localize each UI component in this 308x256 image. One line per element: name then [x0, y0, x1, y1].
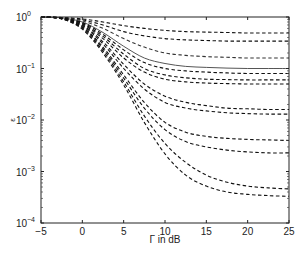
y-tick-exponent: −1: [27, 62, 35, 69]
y-tick-label: 10: [16, 167, 28, 178]
y-tick-exponent: 0: [27, 10, 31, 17]
x-tick-label: 25: [283, 226, 295, 237]
y-tick-exponent: −2: [27, 113, 35, 120]
plot-frame: [41, 17, 289, 223]
x-axis-label: Γ in dB: [149, 234, 180, 245]
x-tick-label: 0: [80, 226, 86, 237]
x-axis-ticks: −50510152025: [35, 17, 295, 237]
x-tick-label: 20: [242, 226, 254, 237]
y-tick-exponent: −4: [27, 216, 35, 223]
series-line-10: [41, 17, 289, 141]
line-chart: −50510152025 10010−110−210−310−4 Γ in dB…: [0, 0, 308, 256]
x-tick-label: 5: [121, 226, 127, 237]
plot-curves: [41, 17, 289, 196]
x-tick-label: −5: [35, 226, 47, 237]
y-tick-exponent: −3: [27, 165, 35, 172]
series-line-9: [41, 17, 289, 114]
x-tick-label: 15: [201, 226, 213, 237]
y-tick-label: 10: [16, 218, 28, 229]
y-axis-label: ε: [8, 118, 17, 122]
y-tick-label: 10: [16, 115, 28, 126]
series-line-11: [41, 17, 289, 153]
y-axis-ticks: 10010−110−210−310−4: [16, 10, 289, 229]
y-tick-label: 10: [16, 12, 28, 23]
y-tick-label: 10: [16, 64, 28, 75]
series-line-13: [41, 17, 289, 196]
